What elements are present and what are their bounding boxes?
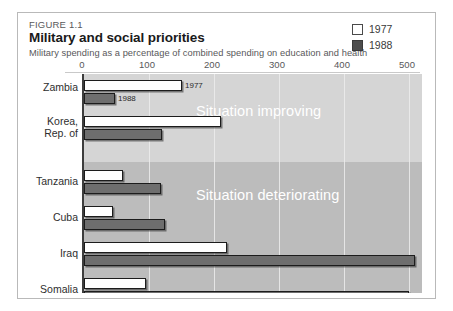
legend-label-1977: 1977 xyxy=(369,23,392,35)
chart-legend: 1977 1988 xyxy=(352,21,426,53)
x-tick-0: 0 xyxy=(79,59,84,70)
y-label-iraq: Iraq xyxy=(60,247,78,259)
bar-somalia-1988 xyxy=(84,291,409,293)
x-tick-300: 300 xyxy=(269,59,285,70)
legend-item-1977: 1977 xyxy=(352,21,426,37)
y-label-cuba: Cuba xyxy=(53,211,78,223)
bar-korea-1988 xyxy=(84,129,162,140)
bar-tanzania-1988 xyxy=(84,183,161,194)
bar-zambia-1977 xyxy=(84,80,182,91)
bar-tag-1988: 1988 xyxy=(118,93,136,104)
legend-item-1988: 1988 xyxy=(352,37,426,53)
x-tick-100: 100 xyxy=(139,59,155,70)
y-label-korea: Korea, Rep. of xyxy=(44,115,78,139)
x-axis-tick-labels: 0 100 200 300 400 500 xyxy=(18,59,437,73)
dark-square-icon xyxy=(352,40,363,51)
y-label-tanzania: Tanzania xyxy=(36,175,78,187)
legend-label-1988: 1988 xyxy=(369,39,392,51)
figure-title: Military and social priorities xyxy=(29,30,205,45)
bar-tanzania-1977 xyxy=(84,170,123,181)
x-tick-500: 500 xyxy=(399,59,415,70)
zone-label-deteriorating: Situation deteriorating xyxy=(196,187,339,203)
white-square-icon xyxy=(352,24,363,35)
y-label-zambia: Zambia xyxy=(43,81,78,93)
bar-zambia-1988 xyxy=(84,93,115,104)
bar-tag-1977: 1977 xyxy=(185,80,203,91)
bar-iraq-1977 xyxy=(84,242,227,253)
figure-subtitle: Military spending as a percentage of com… xyxy=(29,48,367,58)
figure-panel: FIGURE 1.1 Military and social prioritie… xyxy=(17,12,436,299)
bar-somalia-1977 xyxy=(84,278,146,289)
y-label-somalia: Somalia xyxy=(40,283,78,295)
figure-number: FIGURE 1.1 xyxy=(29,19,83,30)
x-tick-200: 200 xyxy=(204,59,220,70)
bar-cuba-1977 xyxy=(84,206,113,217)
plot-area: Situation improving Situation deteriorat… xyxy=(82,74,422,293)
bar-korea-1977 xyxy=(84,116,221,127)
bar-cuba-1988 xyxy=(84,219,165,230)
y-axis-category-labels: Zambia Korea, Rep. of Tanzania Cuba Iraq… xyxy=(18,74,78,293)
x-tick-400: 400 xyxy=(334,59,350,70)
bar-iraq-1988 xyxy=(84,255,415,266)
x-axis-rule xyxy=(65,72,420,73)
